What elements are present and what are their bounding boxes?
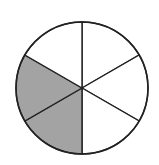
fraction-circle-diagram	[0, 0, 159, 165]
center-point	[81, 87, 84, 90]
